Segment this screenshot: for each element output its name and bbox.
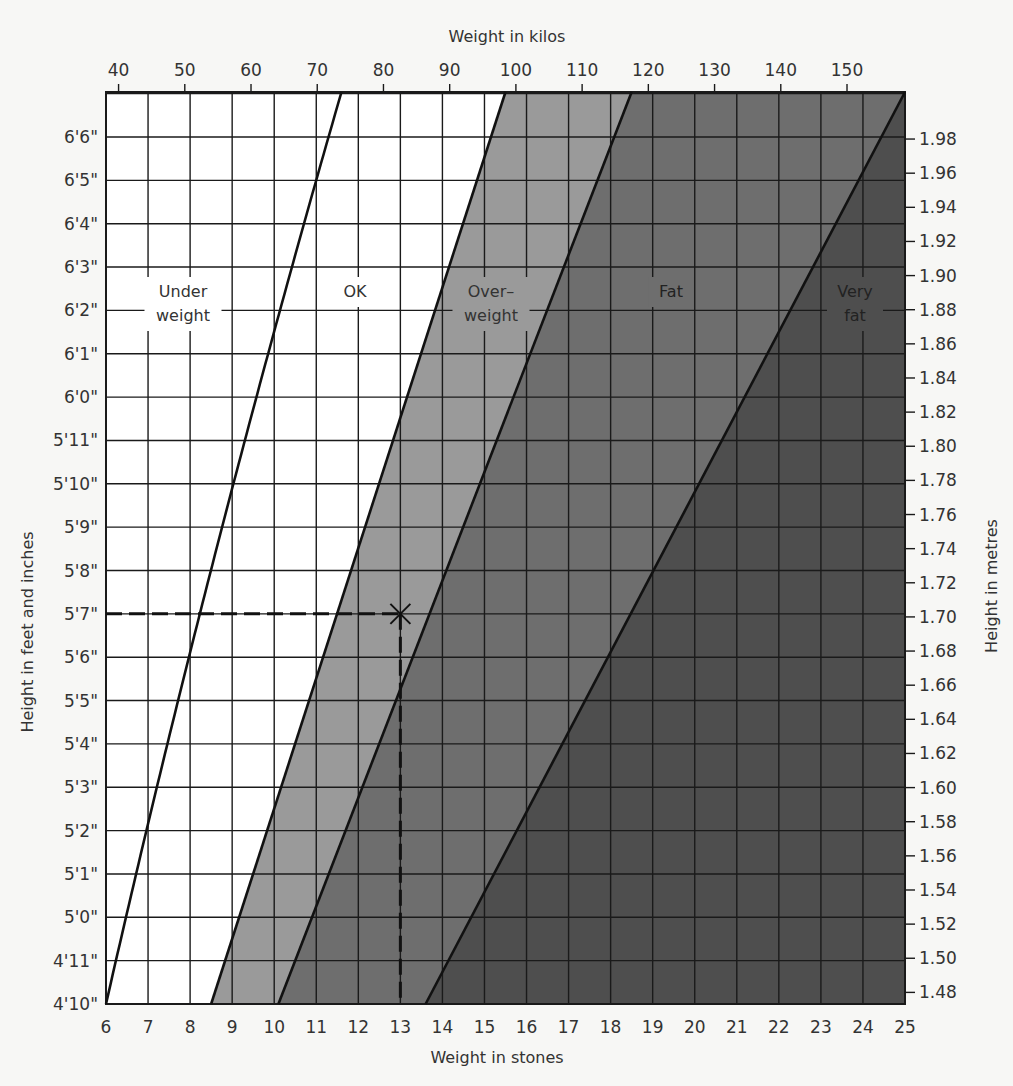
tick-feet-inches: 5'11" <box>53 430 98 450</box>
tick-stones: 12 <box>347 1017 369 1037</box>
tick-feet-inches: 6'3" <box>64 257 98 277</box>
tick-stones: 16 <box>516 1017 538 1037</box>
chart-canvas: UnderweightOKOver–weightFatVeryfat 67891… <box>0 0 1013 1086</box>
tick-metres: 1.78 <box>919 470 957 490</box>
tick-metres: 1.48 <box>919 982 957 1002</box>
tick-stones: 15 <box>474 1017 496 1037</box>
tick-metres: 1.74 <box>919 539 957 559</box>
tick-feet-inches: 5'2" <box>64 821 98 841</box>
tick-feet-inches: 6'4" <box>64 214 98 234</box>
tick-feet-inches: 5'10" <box>53 474 98 494</box>
region-fills <box>106 92 905 1004</box>
tick-feet-inches: 4'11" <box>53 951 98 971</box>
tick-metres: 1.86 <box>919 334 957 354</box>
tick-feet-inches: 6'6" <box>64 127 98 147</box>
tick-feet-inches: 6'5" <box>64 170 98 190</box>
tick-metres: 1.58 <box>919 812 957 832</box>
region-label-overweight: Over– <box>468 282 514 301</box>
tick-feet-inches: 5'6" <box>64 647 98 667</box>
tick-kilos: 130 <box>698 60 730 80</box>
tick-kilos: 60 <box>240 60 262 80</box>
tick-feet-inches: 5'4" <box>64 734 98 754</box>
tick-stones: 19 <box>642 1017 664 1037</box>
region-label-very-fat: Very <box>837 282 873 301</box>
tick-feet-inches: 5'0" <box>64 907 98 927</box>
tick-kilos: 100 <box>500 60 532 80</box>
tick-stones: 7 <box>143 1017 154 1037</box>
tick-stones: 9 <box>227 1017 238 1037</box>
region-label-ok: OK <box>343 282 367 301</box>
tick-kilos: 50 <box>174 60 196 80</box>
region-label-underweight: weight <box>156 306 210 325</box>
tick-stones: 17 <box>558 1017 580 1037</box>
tick-metres: 1.80 <box>919 436 957 456</box>
tick-metres: 1.60 <box>919 778 957 798</box>
tick-stones: 23 <box>810 1017 832 1037</box>
tick-feet-inches: 5'5" <box>64 691 98 711</box>
axis-title-stones: Weight in stones <box>430 1048 563 1067</box>
tick-metres: 1.84 <box>919 368 957 388</box>
tick-metres: 1.96 <box>919 163 957 183</box>
tick-stones: 20 <box>684 1017 706 1037</box>
tick-feet-inches: 6'2" <box>64 300 98 320</box>
tick-stones: 18 <box>600 1017 622 1037</box>
tick-metres: 1.92 <box>919 231 957 251</box>
tick-metres: 1.90 <box>919 266 957 286</box>
tick-stones: 21 <box>726 1017 748 1037</box>
tick-metres: 1.70 <box>919 607 957 627</box>
tick-feet-inches: 5'3" <box>64 777 98 797</box>
tick-feet-inches: 4'10" <box>53 994 98 1014</box>
region-label-overweight: weight <box>464 306 518 325</box>
tick-kilos: 80 <box>373 60 395 80</box>
tick-kilos: 110 <box>566 60 598 80</box>
bmi-chart: UnderweightOKOver–weightFatVeryfat 67891… <box>0 0 1013 1086</box>
tick-feet-inches: 5'9" <box>64 517 98 537</box>
tick-kilos: 140 <box>765 60 797 80</box>
tick-metres: 1.56 <box>919 846 957 866</box>
tick-stones: 22 <box>768 1017 790 1037</box>
tick-feet-inches: 6'1" <box>64 344 98 364</box>
tick-metres: 1.82 <box>919 402 957 422</box>
tick-stones: 10 <box>263 1017 285 1037</box>
tick-metres: 1.64 <box>919 709 957 729</box>
tick-metres: 1.50 <box>919 948 957 968</box>
tick-kilos: 120 <box>632 60 664 80</box>
region-label-very-fat: fat <box>844 306 866 325</box>
tick-stones: 6 <box>101 1017 112 1037</box>
axis-title-kilos: Weight in kilos <box>449 27 566 46</box>
tick-metres: 1.98 <box>919 129 957 149</box>
region-label-underweight: Under <box>159 282 208 301</box>
tick-feet-inches: 5'8" <box>64 561 98 581</box>
tick-stones: 8 <box>185 1017 196 1037</box>
tick-kilos: 90 <box>439 60 461 80</box>
tick-metres: 1.72 <box>919 573 957 593</box>
tick-metres: 1.88 <box>919 300 957 320</box>
tick-stones: 11 <box>305 1017 327 1037</box>
tick-feet-inches: 5'7" <box>64 604 98 624</box>
tick-kilos: 150 <box>831 60 863 80</box>
tick-feet-inches: 5'1" <box>64 864 98 884</box>
tick-metres: 1.52 <box>919 914 957 934</box>
tick-feet-inches: 6'0" <box>64 387 98 407</box>
tick-stones: 14 <box>432 1017 454 1037</box>
tick-metres: 1.94 <box>919 197 957 217</box>
tick-metres: 1.54 <box>919 880 957 900</box>
tick-kilos: 40 <box>108 60 130 80</box>
tick-kilos: 70 <box>306 60 328 80</box>
tick-stones: 25 <box>894 1017 916 1037</box>
tick-stones: 24 <box>852 1017 874 1037</box>
tick-stones: 13 <box>390 1017 412 1037</box>
region-label-fat: Fat <box>659 282 683 301</box>
axis-title-metres: Height in metres <box>982 519 1001 653</box>
axis-title-feet-inches: Height in feet and inches <box>18 531 37 732</box>
tick-metres: 1.62 <box>919 743 957 763</box>
tick-metres: 1.68 <box>919 641 957 661</box>
tick-metres: 1.76 <box>919 505 957 525</box>
tick-metres: 1.66 <box>919 675 957 695</box>
